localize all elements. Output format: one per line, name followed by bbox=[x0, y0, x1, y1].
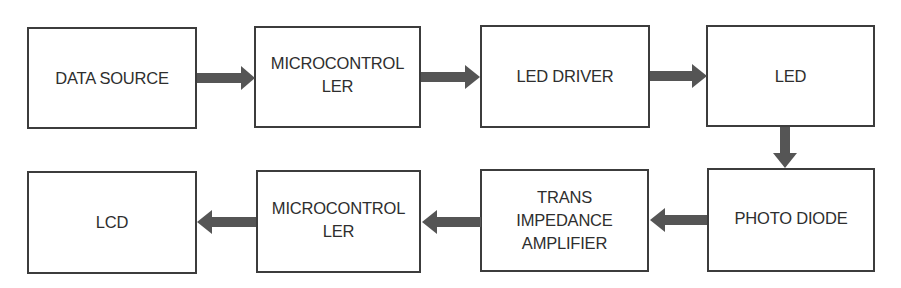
led-block: LED bbox=[706, 25, 875, 127]
arrow-led-driver-to-led bbox=[650, 63, 708, 89]
arrow-tia-to-microcontroller bbox=[421, 209, 481, 235]
led-driver-block: LED DRIVER bbox=[480, 25, 650, 128]
lcd-block: LCD bbox=[27, 171, 197, 274]
led-label: LED bbox=[775, 65, 807, 88]
left-arrow-icon bbox=[649, 207, 707, 233]
down-arrow-icon bbox=[773, 127, 797, 169]
lcd-label: LCD bbox=[96, 211, 128, 234]
photo-diode-block: PHOTO DIODE bbox=[707, 168, 875, 272]
arrow-microcontroller-to-led-driver bbox=[421, 64, 481, 90]
right-arrow-icon bbox=[421, 64, 481, 90]
left-arrow-icon bbox=[421, 209, 481, 235]
arrow-photo-diode-to-tia bbox=[649, 207, 707, 233]
photo-diode-label: PHOTO DIODE bbox=[734, 207, 847, 230]
led-driver-label: LED DRIVER bbox=[516, 65, 613, 88]
microcontroller-rx-label: MICROCONTROL LER bbox=[272, 197, 405, 243]
arrow-led-to-photo-diode bbox=[773, 127, 797, 169]
data-source-label: DATA SOURCE bbox=[55, 67, 169, 90]
data-source-block: DATA SOURCE bbox=[27, 27, 197, 129]
microcontroller-tx-label: MICROCONTROL LER bbox=[271, 52, 404, 98]
microcontroller-rx-block: MICROCONTROL LER bbox=[256, 170, 421, 273]
trans-impedance-amplifier-block: TRANS IMPEDANCE AMPLIFIER bbox=[480, 169, 649, 272]
arrow-data-source-to-microcontroller bbox=[197, 65, 257, 91]
right-arrow-icon bbox=[197, 65, 257, 91]
right-arrow-icon bbox=[650, 63, 708, 89]
microcontroller-tx-block: MICROCONTROL LER bbox=[254, 26, 421, 128]
arrow-microcontroller-to-lcd bbox=[196, 209, 256, 235]
left-arrow-icon bbox=[196, 209, 256, 235]
trans-impedance-amplifier-label: TRANS IMPEDANCE AMPLIFIER bbox=[516, 186, 612, 255]
